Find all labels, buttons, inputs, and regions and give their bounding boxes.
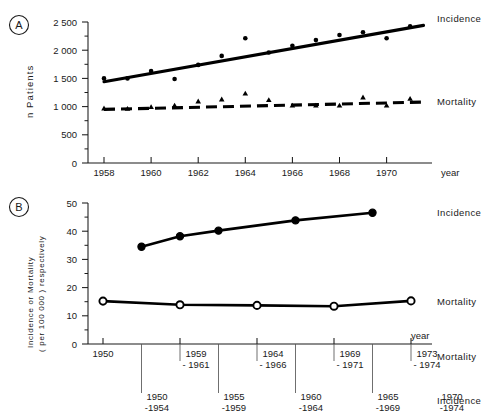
panel-b-mortality-label-2-l2: - 1966 bbox=[260, 359, 287, 370]
panel-b-incidence-label-3-l2: -1969 bbox=[376, 402, 400, 413]
panel-a-xtick-1966: 1966 bbox=[282, 167, 303, 178]
panel-b-incidence-line bbox=[142, 213, 373, 247]
panel-b-y-ticks: 50 40 30 20 10 0 bbox=[66, 198, 88, 350]
panel-b-letter-badge: B bbox=[10, 198, 29, 217]
panel-b-ytick-10: 10 bbox=[66, 310, 77, 321]
panel-b-mortality-label-3-l2: - 1971 bbox=[337, 359, 364, 370]
panel-b-x-ticks bbox=[103, 338, 411, 393]
panel-b-legend-incidence: Incidence bbox=[437, 207, 481, 218]
panel-a-letter: A bbox=[15, 19, 23, 31]
panel-a-x-ticks: 1958 1960 1962 1964 1966 1968 1970 bbox=[93, 157, 397, 178]
panel-a-legend-incidence: Incidence bbox=[437, 13, 481, 24]
panel-b-incidence-label-2-l2: -1964 bbox=[299, 402, 323, 413]
panel-b-mortality-label-3-l1: 1969 bbox=[339, 348, 360, 359]
panel-a-letter-badge: A bbox=[10, 16, 29, 35]
panel-a-ytick-1000: 1 000 bbox=[53, 101, 77, 112]
panel-a-y-ticks: 2 500 2 000 1 500 1 000 500 0 bbox=[53, 17, 88, 169]
panel-a-xtick-1964: 1964 bbox=[235, 167, 256, 178]
panel-b-legend-mortality: Mortality bbox=[437, 296, 477, 307]
panel-b-y-axis-title-line2: ( per 100 000 ) respectively bbox=[37, 235, 46, 352]
panel-b-incidence-label-1-l1: 1955 bbox=[223, 391, 244, 402]
panel-b-ytick-40: 40 bbox=[66, 226, 77, 237]
panel-b-ytick-0: 0 bbox=[72, 339, 77, 350]
panel-a-legend-mortality: Mortality bbox=[437, 96, 477, 107]
panel-a-ytick-2000: 2 000 bbox=[53, 45, 77, 56]
panel-b-mortality-axis-labels: 1950 1959 - 1961 1964 - 1966 1969 - 1971… bbox=[92, 348, 440, 370]
panel-a-ytick-2500: 2 500 bbox=[53, 17, 77, 28]
panel-a-xtick-1962: 1962 bbox=[188, 167, 209, 178]
panel-a-ytick-0: 0 bbox=[72, 158, 77, 169]
panel-b-axis-legend-incidence: Incidence bbox=[437, 395, 481, 406]
panel-a: A n Patients 2 500 2 000 1 500 1 000 bbox=[10, 13, 482, 178]
panel-a-xtick-1968: 1968 bbox=[329, 167, 350, 178]
panel-a-xtick-1960: 1960 bbox=[141, 167, 162, 178]
panel-b-axis-legend-mortality: Mortality bbox=[437, 351, 477, 362]
panel-b-incidence-label-3-l1: 1965 bbox=[377, 391, 398, 402]
panel-a-y-axis-title: n Patients bbox=[24, 65, 35, 118]
panel-b-incidence-label-0-l2: -1954 bbox=[145, 402, 169, 413]
panel-b-y-axis-title-line1: Incidence or Mortality bbox=[26, 257, 35, 348]
panel-b-incidence-axis-labels: 1950 -1954 1955 -1959 1960 -1964 1965 -1… bbox=[145, 391, 464, 413]
panel-b-ytick-50: 50 bbox=[66, 198, 77, 209]
panel-b-ytick-20: 20 bbox=[66, 282, 77, 293]
panel-b-x-axis-title: year bbox=[411, 330, 429, 341]
panel-b-mortality-label-4-l1: 1973 bbox=[416, 348, 437, 359]
panel-b-mortality-label-1-l2: - 1961 bbox=[183, 359, 210, 370]
panel-a-incidence-fit-line bbox=[104, 25, 424, 81]
panel-b-mortality-label-0-l1: 1950 bbox=[92, 348, 113, 359]
panel-a-x-axis-title: year bbox=[441, 167, 459, 178]
panel-b-ytick-30: 30 bbox=[66, 254, 77, 265]
panel-a-ytick-1500: 1 500 bbox=[53, 73, 77, 84]
panel-a-xtick-1958: 1958 bbox=[93, 167, 114, 178]
panel-a-ytick-500: 500 bbox=[61, 129, 77, 140]
figure-container: A n Patients 2 500 2 000 1 500 1 000 bbox=[0, 0, 500, 420]
panel-b-incidence-label-2-l1: 1960 bbox=[300, 391, 321, 402]
panel-b: B Incidence or Mortality ( per 100 000 )… bbox=[10, 198, 482, 414]
panel-b-mortality-label-2-l1: 1964 bbox=[262, 348, 283, 359]
panel-a-xtick-1970: 1970 bbox=[376, 167, 397, 178]
panel-b-letter: B bbox=[15, 201, 22, 213]
panel-b-incidence-label-0-l1: 1950 bbox=[146, 391, 167, 402]
panel-b-mortality-label-1-l1: 1959 bbox=[185, 348, 206, 359]
panel-b-incidence-label-1-l2: -1959 bbox=[222, 402, 246, 413]
